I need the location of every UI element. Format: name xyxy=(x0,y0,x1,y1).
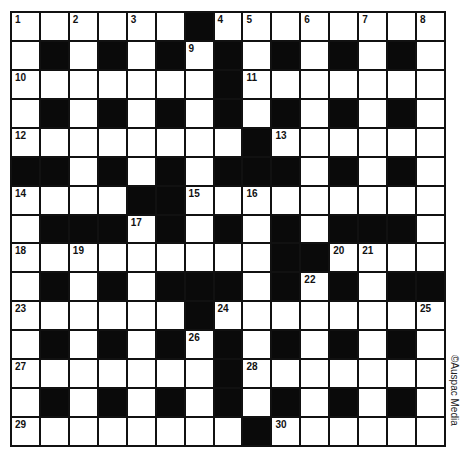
answer-cell[interactable] xyxy=(272,302,299,329)
answer-cell[interactable] xyxy=(41,13,68,40)
answer-cell[interactable] xyxy=(330,302,357,329)
answer-cell[interactable] xyxy=(99,418,126,445)
answer-cell[interactable] xyxy=(157,13,184,40)
answer-cell[interactable] xyxy=(157,418,184,445)
answer-cell[interactable] xyxy=(417,389,444,416)
answer-cell[interactable]: 18 xyxy=(12,244,39,271)
answer-cell[interactable]: 23 xyxy=(12,302,39,329)
answer-cell[interactable] xyxy=(272,71,299,98)
answer-cell[interactable] xyxy=(388,418,415,445)
answer-cell[interactable] xyxy=(99,71,126,98)
answer-cell[interactable] xyxy=(12,331,39,358)
answer-cell[interactable]: 3 xyxy=(128,13,155,40)
answer-cell[interactable] xyxy=(41,302,68,329)
answer-cell[interactable] xyxy=(70,100,97,127)
answer-cell[interactable]: 24 xyxy=(215,302,242,329)
answer-cell[interactable] xyxy=(186,71,213,98)
answer-cell[interactable] xyxy=(70,71,97,98)
answer-cell[interactable] xyxy=(157,71,184,98)
answer-cell[interactable] xyxy=(243,216,270,243)
answer-cell[interactable] xyxy=(12,100,39,127)
answer-cell[interactable] xyxy=(301,129,328,156)
answer-cell[interactable] xyxy=(417,244,444,271)
answer-cell[interactable] xyxy=(128,273,155,300)
answer-cell[interactable] xyxy=(417,331,444,358)
answer-cell[interactable] xyxy=(41,244,68,271)
answer-cell[interactable]: 17 xyxy=(128,216,155,243)
answer-cell[interactable] xyxy=(243,273,270,300)
answer-cell[interactable] xyxy=(330,129,357,156)
answer-cell[interactable] xyxy=(417,129,444,156)
answer-cell[interactable] xyxy=(70,187,97,214)
answer-cell[interactable] xyxy=(128,244,155,271)
answer-cell[interactable] xyxy=(41,129,68,156)
answer-cell[interactable] xyxy=(128,129,155,156)
answer-cell[interactable]: 22 xyxy=(301,273,328,300)
answer-cell[interactable] xyxy=(99,360,126,387)
answer-cell[interactable] xyxy=(99,302,126,329)
answer-cell[interactable]: 19 xyxy=(70,244,97,271)
answer-cell[interactable] xyxy=(359,129,386,156)
answer-cell[interactable] xyxy=(388,71,415,98)
answer-cell[interactable] xyxy=(243,42,270,69)
answer-cell[interactable] xyxy=(70,331,97,358)
answer-cell[interactable] xyxy=(128,42,155,69)
answer-cell[interactable] xyxy=(301,418,328,445)
answer-cell[interactable]: 9 xyxy=(186,42,213,69)
answer-cell[interactable] xyxy=(359,187,386,214)
answer-cell[interactable] xyxy=(417,42,444,69)
answer-cell[interactable] xyxy=(359,158,386,185)
answer-cell[interactable] xyxy=(70,360,97,387)
answer-cell[interactable] xyxy=(272,13,299,40)
answer-cell[interactable] xyxy=(417,360,444,387)
answer-cell[interactable] xyxy=(359,389,386,416)
answer-cell[interactable] xyxy=(243,302,270,329)
answer-cell[interactable] xyxy=(359,331,386,358)
answer-cell[interactable] xyxy=(70,418,97,445)
answer-cell[interactable] xyxy=(215,129,242,156)
answer-cell[interactable] xyxy=(186,244,213,271)
answer-cell[interactable] xyxy=(70,273,97,300)
answer-cell[interactable] xyxy=(70,129,97,156)
answer-cell[interactable] xyxy=(215,418,242,445)
answer-cell[interactable] xyxy=(157,360,184,387)
answer-cell[interactable]: 10 xyxy=(12,71,39,98)
answer-cell[interactable]: 30 xyxy=(272,418,299,445)
answer-cell[interactable]: 16 xyxy=(243,187,270,214)
answer-cell[interactable] xyxy=(388,302,415,329)
answer-cell[interactable] xyxy=(128,71,155,98)
answer-cell[interactable] xyxy=(12,273,39,300)
answer-cell[interactable] xyxy=(417,158,444,185)
answer-cell[interactable] xyxy=(330,360,357,387)
answer-cell[interactable] xyxy=(359,360,386,387)
answer-cell[interactable] xyxy=(301,216,328,243)
answer-cell[interactable] xyxy=(186,129,213,156)
answer-cell[interactable] xyxy=(301,158,328,185)
answer-cell[interactable] xyxy=(243,389,270,416)
answer-cell[interactable] xyxy=(186,100,213,127)
answer-cell[interactable] xyxy=(99,244,126,271)
answer-cell[interactable] xyxy=(157,244,184,271)
answer-cell[interactable] xyxy=(417,71,444,98)
answer-cell[interactable] xyxy=(215,244,242,271)
answer-cell[interactable] xyxy=(41,418,68,445)
answer-cell[interactable]: 12 xyxy=(12,129,39,156)
answer-cell[interactable]: 5 xyxy=(243,13,270,40)
answer-cell[interactable] xyxy=(186,418,213,445)
answer-cell[interactable] xyxy=(99,13,126,40)
answer-cell[interactable]: 7 xyxy=(359,13,386,40)
answer-cell[interactable] xyxy=(243,244,270,271)
answer-cell[interactable] xyxy=(12,42,39,69)
answer-cell[interactable]: 2 xyxy=(70,13,97,40)
answer-cell[interactable] xyxy=(301,302,328,329)
answer-cell[interactable]: 11 xyxy=(243,71,270,98)
answer-cell[interactable] xyxy=(330,418,357,445)
answer-cell[interactable] xyxy=(301,389,328,416)
answer-cell[interactable] xyxy=(301,100,328,127)
answer-cell[interactable] xyxy=(243,331,270,358)
answer-cell[interactable] xyxy=(128,331,155,358)
answer-cell[interactable] xyxy=(128,389,155,416)
answer-cell[interactable] xyxy=(186,389,213,416)
answer-cell[interactable] xyxy=(272,360,299,387)
answer-cell[interactable]: 4 xyxy=(215,13,242,40)
